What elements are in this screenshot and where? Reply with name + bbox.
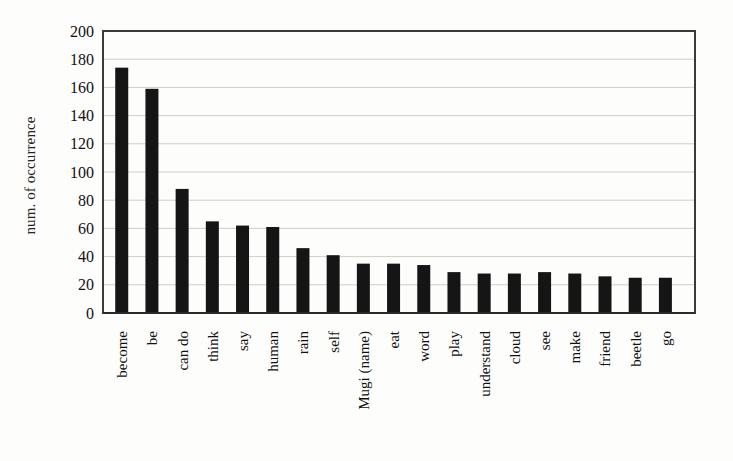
- bar: [115, 68, 128, 313]
- y-tick-labels-group: 200180160140120100806040200: [70, 23, 94, 322]
- bar: [478, 274, 491, 313]
- bar: [538, 272, 551, 313]
- bar: [145, 89, 158, 313]
- bar: [629, 278, 642, 313]
- category-label: human: [265, 331, 281, 372]
- y-tick-label: 80: [78, 192, 94, 209]
- bar: [296, 248, 309, 313]
- category-label: beetle: [628, 331, 644, 367]
- category-label: play: [446, 331, 462, 357]
- bar: [206, 221, 219, 313]
- y-tick-label: 0: [86, 305, 94, 322]
- category-label: see: [537, 331, 553, 350]
- bar-chart-figure: num. of occurrence 200180160140120100806…: [0, 0, 733, 461]
- category-label: go: [658, 331, 674, 346]
- bar: [447, 272, 460, 313]
- chart-canvas: 200180160140120100806040200 becomebecan …: [0, 0, 733, 461]
- category-label: cloud: [507, 331, 523, 365]
- category-label: friend: [597, 331, 613, 367]
- bar: [357, 264, 370, 313]
- category-label: think: [205, 331, 221, 362]
- category-label: Mugi (name): [356, 331, 373, 410]
- bar: [266, 227, 279, 313]
- category-label: be: [144, 331, 160, 346]
- bar: [508, 274, 521, 313]
- category-labels-group: becomebecan dothinksayhumanrainselfMugi …: [114, 330, 674, 410]
- y-tick-label: 200: [70, 23, 94, 40]
- category-label: say: [235, 331, 251, 351]
- y-tick-label: 160: [70, 79, 94, 96]
- category-label: become: [114, 331, 130, 378]
- category-label: eat: [386, 330, 402, 348]
- bar: [568, 274, 581, 313]
- y-tick-label: 60: [78, 220, 94, 237]
- bar: [659, 278, 672, 313]
- y-axis-title-text: num. of occurrence: [22, 116, 39, 234]
- y-axis-title: num. of occurrence: [10, 60, 50, 290]
- category-label: word: [416, 331, 432, 362]
- bar: [387, 264, 400, 313]
- y-tick-label: 100: [70, 164, 94, 181]
- category-label: make: [567, 331, 583, 364]
- bars-group: [115, 68, 672, 313]
- bar: [176, 189, 189, 313]
- y-tick-label: 40: [78, 248, 94, 265]
- category-label: self: [326, 331, 342, 353]
- category-label: can do: [175, 331, 191, 371]
- category-label: understand: [477, 331, 493, 397]
- bar: [236, 226, 249, 313]
- bar: [327, 255, 340, 313]
- bar: [417, 265, 430, 313]
- y-tick-label: 120: [70, 135, 94, 152]
- category-label: rain: [295, 331, 311, 355]
- bar: [598, 276, 611, 313]
- gridlines-group: [103, 59, 695, 285]
- y-tick-label: 180: [70, 51, 94, 68]
- y-tick-label: 140: [70, 107, 94, 124]
- y-tick-label: 20: [78, 276, 94, 293]
